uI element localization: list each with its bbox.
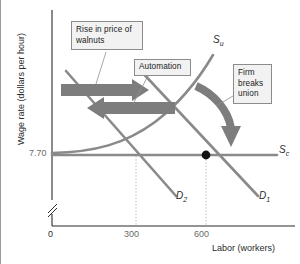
curved-down-arrow-shaft — [196, 86, 231, 128]
curve-label-d2: D2 — [176, 190, 187, 203]
chart-canvas — [0, 0, 300, 264]
curved-down-arrow-head — [221, 126, 241, 147]
equilibrium-dot — [202, 151, 211, 160]
curve-label-d2-sub: 2 — [183, 196, 187, 203]
curve-label-su-sub: u — [220, 40, 224, 47]
curve-label-sc-base: S — [279, 144, 286, 155]
axis-break-mark-1 — [48, 204, 57, 213]
x-axis-label: Labor (workers) — [212, 243, 275, 253]
curve-label-su: Su — [213, 34, 224, 47]
leader-line-walnuts — [96, 52, 106, 84]
y-tick-wage: 7.70 — [29, 148, 47, 158]
curve-label-sc-sub: c — [286, 150, 290, 157]
x-tick-600: 600 — [194, 229, 209, 239]
rightward-shift-arrow — [61, 79, 149, 101]
curve-label-sc: Sc — [279, 144, 289, 157]
x-tick-300: 300 — [124, 229, 139, 239]
callout-firm-breaks-union: Firm breaks union — [233, 64, 272, 104]
supply-demand-figure: Wage rate (dollars per hour) Labor (work… — [0, 0, 300, 264]
curve-label-d1-sub: 1 — [266, 196, 270, 203]
curve-label-su-base: S — [213, 34, 220, 45]
y-axis-label: Wage rate (dollars per hour) — [16, 14, 26, 164]
x-tick-0: 0 — [48, 229, 53, 239]
callout-rise-in-price-of-walnuts: Rise in price of walnuts — [71, 21, 143, 50]
callout-automation: Automation — [134, 59, 191, 76]
curve-label-d1: D1 — [259, 190, 270, 203]
